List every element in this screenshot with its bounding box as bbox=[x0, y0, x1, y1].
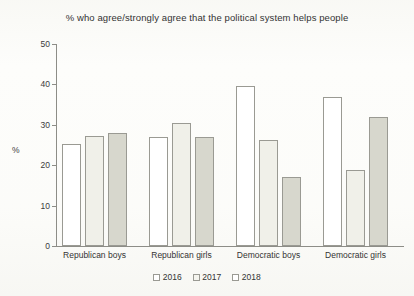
y-axis-title: % bbox=[12, 145, 20, 155]
y-tick-label-30: 30 bbox=[24, 120, 50, 130]
bar-2018 bbox=[195, 137, 214, 246]
y-tick-label-10: 10 bbox=[24, 201, 50, 211]
y-axis-ticks: 50 40 30 20 10 0 bbox=[22, 0, 50, 296]
y-tick-label-0: 0 bbox=[24, 241, 50, 251]
bar-2018 bbox=[282, 177, 301, 246]
bar-group bbox=[236, 44, 305, 246]
y-tick-label-50: 50 bbox=[24, 39, 50, 49]
bar-2018 bbox=[108, 133, 127, 246]
chart-title: % who agree/strongly agree that the poli… bbox=[52, 12, 362, 24]
bar-2016 bbox=[149, 137, 168, 246]
bar-2017 bbox=[85, 136, 104, 246]
bar-2018 bbox=[369, 117, 388, 246]
legend-swatch-icon-2018 bbox=[232, 274, 239, 281]
legend-swatch-icon-2016 bbox=[153, 274, 160, 281]
legend-label-2018: 2018 bbox=[242, 272, 261, 282]
bar-2016 bbox=[62, 144, 81, 246]
bar-chart-figure: % who agree/strongly agree that the poli… bbox=[0, 0, 414, 296]
bar-2017 bbox=[259, 140, 278, 246]
y-tick-label-40: 40 bbox=[24, 79, 50, 89]
plot-area bbox=[56, 44, 404, 246]
x-axis-label: Republican girls bbox=[137, 250, 227, 260]
bar-2016 bbox=[236, 86, 255, 246]
y-tick-label-20: 20 bbox=[24, 160, 50, 170]
x-axis-label: Republican boys bbox=[50, 250, 140, 260]
x-axis-label: Democratic girls bbox=[311, 250, 401, 260]
bar-group bbox=[323, 44, 392, 246]
bar-2016 bbox=[323, 97, 342, 246]
x-axis-label: Democratic boys bbox=[224, 250, 314, 260]
legend-label-2016: 2016 bbox=[163, 272, 182, 282]
legend-label-2017: 2017 bbox=[202, 272, 221, 282]
chart-legend: 2016 2017 2018 bbox=[0, 272, 414, 282]
bar-2017 bbox=[346, 170, 365, 246]
legend-item-2017: 2017 bbox=[193, 272, 221, 282]
bar-group bbox=[62, 44, 131, 246]
bar-group bbox=[149, 44, 218, 246]
legend-item-2018: 2018 bbox=[232, 272, 260, 282]
legend-item-2016: 2016 bbox=[153, 272, 181, 282]
x-axis-line bbox=[56, 246, 404, 247]
bar-2017 bbox=[172, 123, 191, 246]
legend-swatch-icon-2017 bbox=[193, 274, 200, 281]
